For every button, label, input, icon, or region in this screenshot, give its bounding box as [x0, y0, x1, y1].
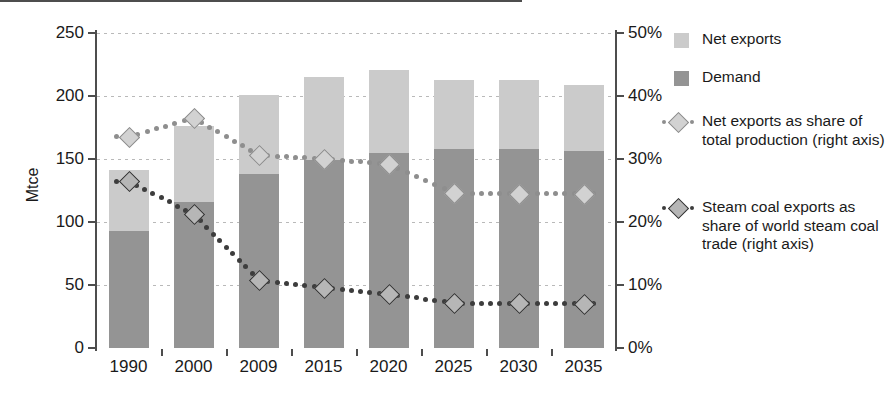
legend-dot [662, 120, 666, 124]
line-dot [479, 301, 484, 306]
line-dot [172, 121, 177, 126]
y-axis-left-tick [88, 221, 95, 223]
y-axis-left-tick-label: 50 [22, 276, 84, 293]
line-dot [423, 297, 428, 302]
line-dot [358, 289, 363, 294]
y-axis-right-tick [617, 221, 624, 223]
x-axis-tick-label: 2015 [289, 357, 359, 377]
line-dot [553, 301, 558, 306]
line-dot [535, 301, 540, 306]
x-axis-tick-label: 2000 [159, 357, 229, 377]
line-dot [275, 154, 280, 159]
y-axis-right-tick [617, 347, 624, 349]
stacked-bar [239, 95, 279, 348]
y-axis-right-tick [617, 158, 624, 160]
gridline [97, 33, 615, 34]
stacked-bar [369, 70, 409, 348]
line-dot [544, 301, 549, 306]
x-axis-tick [551, 349, 553, 356]
legend-label: Net exports [702, 30, 885, 49]
line-dot [470, 301, 475, 306]
line-dot [544, 191, 549, 196]
bar-segment-demand [239, 174, 279, 348]
y-axis-left-tick [88, 284, 95, 286]
x-axis-tick [291, 349, 293, 356]
line-dot [340, 287, 345, 292]
line-dot [349, 288, 354, 293]
legend-diamond [668, 198, 689, 219]
x-axis-tick-label: 2035 [549, 357, 619, 377]
x-axis-tick [161, 349, 163, 356]
y-axis-left-tick [88, 347, 95, 349]
y-axis-left-tick-label: 200 [22, 87, 84, 104]
legend-swatch-demand [674, 71, 689, 86]
legend-item: Demand [660, 68, 885, 87]
legend-swatch-net-exports [674, 33, 689, 48]
line-dot [293, 155, 298, 160]
line-dot [163, 124, 168, 129]
legend-dot [690, 206, 694, 210]
y-axis-right-tick-label: 0% [628, 339, 698, 356]
line-dot [405, 170, 410, 175]
x-axis-tick-label: 1990 [94, 357, 164, 377]
line-dot [230, 251, 235, 256]
y-axis-right-tick [617, 95, 624, 97]
line-dot [175, 204, 180, 209]
bar-segment-demand [109, 231, 149, 348]
line-dot [423, 178, 428, 183]
line-dot [340, 158, 345, 163]
line-dot [414, 174, 419, 179]
y-axis-left-tick-label: 100 [22, 213, 84, 230]
line-dot [293, 282, 298, 287]
legend-dot [662, 206, 666, 210]
y-axis-right-tick-label: 30% [628, 150, 698, 167]
y-axis-right-tick-label: 40% [628, 87, 698, 104]
line-dot [204, 225, 209, 230]
line-dot [488, 191, 493, 196]
legend-label: Demand [702, 68, 885, 87]
y-axis-left-tick-label: 250 [22, 24, 84, 41]
legend-marker-net-exports-share [660, 114, 698, 131]
x-axis-tick [421, 349, 423, 356]
line-dot [217, 238, 222, 243]
bar-segment-demand [369, 153, 409, 348]
line-dot [237, 258, 242, 263]
bar-segment-net-exports [434, 80, 474, 149]
line-dot [284, 281, 289, 286]
y-axis-right-tick-label: 10% [628, 276, 698, 293]
line-dot [167, 199, 172, 204]
stacked-bar [109, 170, 149, 348]
line-dot [470, 191, 475, 196]
x-axis-tick-label: 2030 [484, 357, 554, 377]
x-axis-tick-label: 2009 [224, 357, 294, 377]
line-dot [154, 126, 159, 131]
stacked-bar [174, 126, 214, 348]
x-axis-tick [486, 349, 488, 356]
bar-segment-net-exports [369, 70, 409, 153]
bar-segment-demand [304, 160, 344, 348]
legend-label: Steam coal exports as share of world ste… [702, 198, 885, 254]
line-dot [405, 294, 410, 299]
chart-figure: Mtce 050100150200250 0%10%20%30%40%50% 1… [0, 0, 888, 410]
x-axis-line [0, 0, 522, 2]
x-axis-tick-label: 2025 [419, 357, 489, 377]
line-dot [224, 134, 229, 139]
line-dot [224, 245, 229, 250]
legend-diamond [668, 112, 689, 133]
legend-item: Net exports as share of total production… [660, 112, 885, 149]
line-dot [479, 191, 484, 196]
line-dot [150, 191, 155, 196]
line-dot [145, 129, 150, 134]
line-dot [232, 139, 237, 144]
y-axis-left-tick-label: 0 [22, 339, 84, 356]
y-axis-right-tick [617, 284, 624, 286]
y-axis-left-tick [88, 95, 95, 97]
y-axis-right-line [615, 30, 617, 351]
line-dot [535, 191, 540, 196]
x-axis-tick [356, 349, 358, 356]
line-dot [553, 191, 558, 196]
legend-item: Steam coal exports as share of world ste… [660, 198, 885, 254]
y-axis-left-tick [88, 158, 95, 160]
line-dot [159, 195, 164, 200]
bar-segment-net-exports [304, 77, 344, 160]
